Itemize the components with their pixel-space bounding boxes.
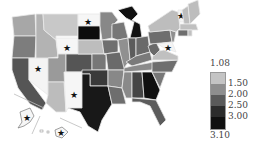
states: ★ ★ ★ ★	[12, 0, 200, 132]
state-rhode-island	[188, 30, 192, 36]
state-massachusetts	[180, 24, 198, 30]
state-iowa	[102, 40, 118, 54]
svg-text:★: ★	[57, 128, 65, 138]
legend-swatch-4	[211, 106, 225, 117]
svg-text:★: ★	[23, 113, 31, 123]
state-arkansas	[108, 70, 124, 88]
state-washington	[12, 14, 36, 36]
state-north-carolina	[152, 60, 178, 72]
legend-label-4: 3.00	[228, 111, 248, 121]
state-nebraska	[78, 40, 104, 54]
state-connecticut	[178, 30, 188, 36]
svg-text:★: ★	[34, 64, 42, 74]
legend-swatch-1	[211, 73, 225, 84]
legend-swatch-5	[211, 117, 225, 129]
svg-text:★: ★	[84, 17, 92, 27]
legend-label-top: 1.08	[210, 58, 230, 68]
state-colorado	[66, 54, 92, 72]
state-kansas	[92, 54, 106, 70]
state-utah	[48, 54, 66, 82]
legend: 1.08 1.50 2.00 2.50 3.00 3.10	[210, 72, 255, 158]
legend-label-1: 1.50	[228, 78, 248, 88]
legend-colorbar	[210, 72, 226, 130]
svg-text:★: ★	[70, 90, 78, 100]
legend-swatch-2	[211, 84, 225, 95]
state-oregon	[12, 36, 36, 58]
legend-swatch-3	[211, 95, 225, 106]
svg-text:★: ★	[63, 43, 71, 53]
state-arizona	[46, 82, 66, 112]
state-maine	[188, 0, 200, 24]
state-florida	[132, 98, 166, 126]
legend-label-bottom: 3.10	[210, 130, 230, 140]
inset-hawaii: ★	[40, 118, 82, 138]
legend-label-3: 2.50	[228, 100, 248, 110]
state-south-dakota	[78, 26, 100, 40]
state-new-york	[148, 10, 180, 32]
state-wisconsin	[112, 22, 128, 40]
legend-label-2: 2.00	[228, 89, 248, 99]
svg-text:★: ★	[164, 43, 172, 53]
